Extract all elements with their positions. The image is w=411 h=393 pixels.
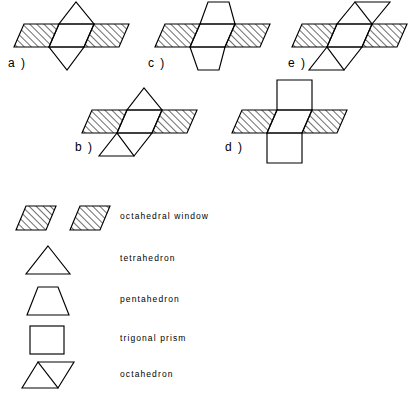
- legend-panel: octahedral window tetrahedron pentahedro…: [0, 190, 411, 378]
- tetrahedron-icon-shape: [26, 246, 70, 274]
- octahedron-icon: [8, 358, 118, 393]
- figure-a-left-octahedral-window: [14, 24, 59, 47]
- octahedron-icon-diagonal: [38, 362, 58, 388]
- figure-d-label: d ): [225, 140, 244, 154]
- figure-c-right-octahedral-window: [225, 24, 270, 47]
- figure-b-label: b ): [75, 140, 94, 154]
- pentahedron-icon: [8, 283, 118, 321]
- figure-d-left-octahedral-window: [232, 110, 277, 133]
- figure-d-top-trigonal-prism: [277, 80, 312, 110]
- trigonal-prism-icon-shape: [30, 326, 64, 354]
- legend-item-pentahedron: pentahedron: [0, 283, 411, 321]
- figure-e-top-octahedron-diagonal: [355, 2, 372, 24]
- tetrahedron-icon: [8, 242, 118, 280]
- legend-label-octahedron: octahedron: [120, 369, 174, 379]
- figure-e-label: e ): [288, 56, 307, 70]
- octahedral-window-icon: [8, 200, 118, 238]
- figure-a-label: a ): [8, 56, 27, 70]
- figure-e-diagram: [292, 2, 411, 80]
- figure-c-left-octahedral-window: [155, 24, 200, 47]
- legend-label-pentahedron: pentahedron: [120, 294, 180, 304]
- figure-c-bottom-pentahedron: [190, 47, 225, 70]
- figure-e-left-octahedral-window: [292, 24, 337, 47]
- trigonal-prism-icon: [8, 322, 118, 360]
- figure-d-diagram: [232, 88, 357, 166]
- octahedral-window-icon-left: [16, 206, 56, 230]
- figure-c-label: c ): [148, 56, 166, 70]
- figure-c-top-pentahedron: [200, 2, 235, 24]
- pentahedron-icon-shape: [27, 287, 69, 315]
- figure-a-bottom-tetrahedron: [49, 47, 84, 70]
- legend-item-trigonal-prism: trigonal prism: [0, 322, 411, 360]
- figure-d-bottom-trigonal-prism: [267, 133, 302, 163]
- figure-c-diagram: [155, 2, 280, 80]
- figure-d-right-octahedral-window: [302, 110, 347, 133]
- figure-panel: a ) c ) e ) b ): [0, 0, 411, 190]
- legend-item-octahedral-window: octahedral window: [0, 200, 411, 238]
- legend-item-octahedron: octahedron: [0, 358, 411, 393]
- figure-a-right-octahedral-window: [84, 24, 129, 47]
- figure-a-top-tetrahedron: [59, 2, 94, 24]
- figure-b-diagram: [82, 88, 207, 166]
- figure-e-right-octahedral-window: [362, 24, 407, 47]
- legend-label-octahedral-window: octahedral window: [120, 211, 209, 221]
- figure-b-top-tetrahedron: [127, 88, 162, 110]
- legend-item-tetrahedron: tetrahedron: [0, 242, 411, 280]
- figure-b-bottom-octahedron-diagonal: [117, 133, 134, 156]
- figure-b-left-octahedral-window: [82, 110, 127, 133]
- figure-e-bottom-octahedron-diagonal: [327, 47, 344, 70]
- legend-label-tetrahedron: tetrahedron: [120, 253, 176, 263]
- legend-label-trigonal-prism: trigonal prism: [120, 333, 186, 343]
- figure-b-right-octahedral-window: [152, 110, 197, 133]
- figure-a-diagram: [14, 2, 139, 80]
- octahedral-window-icon-right: [70, 206, 110, 230]
